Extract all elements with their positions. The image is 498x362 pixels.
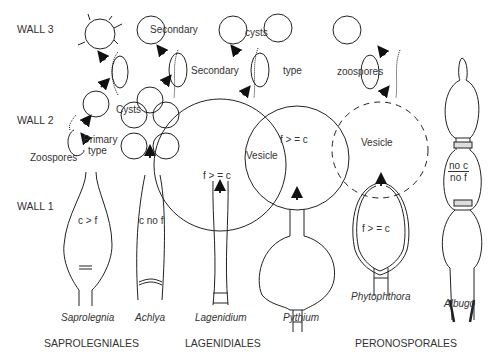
type-label-2: type xyxy=(283,65,302,76)
phytophthora-sporangium xyxy=(332,102,428,296)
cysts-label: Cysts xyxy=(116,104,141,115)
albugo-chain xyxy=(442,58,481,322)
order-lagenidiales: LAGENIDIALES xyxy=(185,338,261,349)
genus-pythium: Pythium xyxy=(283,312,319,323)
wall-2-label: WALL 2 xyxy=(17,115,54,126)
albugo-ratio-top: no c xyxy=(448,160,469,172)
secondary-label-2: Secondary xyxy=(191,65,239,76)
phytophthora-vesicle-label: Vesicle xyxy=(361,137,393,148)
saprolegnia-arrows xyxy=(84,55,106,142)
genus-phytophthora: Phytophthora xyxy=(351,291,411,302)
order-saprolegniales: SAPROLEGNIALES xyxy=(44,338,139,349)
zoospores-label-2: zoospores xyxy=(337,66,383,77)
primary-label: Primary xyxy=(83,134,117,145)
saprolegnia-sporangium xyxy=(64,172,112,306)
genus-achlya: Achlya xyxy=(135,312,165,323)
genus-saprolegnia: Saprolegnia xyxy=(61,312,114,323)
wall-1-label: WALL 1 xyxy=(17,201,54,212)
lagenidium-ratio: f > = c xyxy=(203,170,231,181)
genus-albugo: Albugo xyxy=(444,298,475,309)
secondary-label-1: Secondary xyxy=(150,24,198,35)
zoospores-label: Zoospores xyxy=(30,152,77,163)
wall-3-label: WALL 3 xyxy=(17,24,54,35)
pythium-vesicle-label: Vesicle xyxy=(246,150,278,161)
achlya-ratio: c no f xyxy=(139,215,163,226)
saprolegnia-ratio: c > f xyxy=(78,215,97,226)
type-label: type xyxy=(88,145,107,156)
diagram-drawing xyxy=(0,0,498,362)
phytophthora-ratio: f > = c xyxy=(362,223,390,234)
pythium-ratio: f > = c xyxy=(280,134,308,145)
lagenidium-sporangium xyxy=(154,99,286,305)
order-peronosporales: PERONOSPORALES xyxy=(355,338,457,349)
genus-lagenidium: Lagenidium xyxy=(195,312,247,323)
cysts-label-2: cysts xyxy=(245,27,268,38)
albugo-ratio: no c no f xyxy=(448,160,469,183)
albugo-ratio-bottom: no f xyxy=(450,172,467,183)
